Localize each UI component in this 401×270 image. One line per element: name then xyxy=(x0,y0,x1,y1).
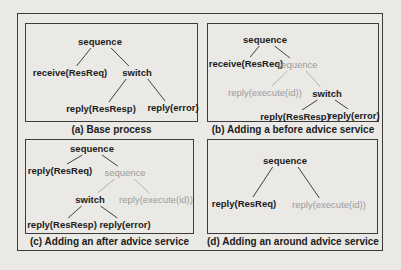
tree-edge-switch-error xyxy=(148,79,165,101)
panel-before-advice: sequencereceive(ResReq)sequencereply(exe… xyxy=(207,23,379,135)
tree-box-d: sequencereply(ResReq)reply(execute(id)) xyxy=(207,139,378,234)
tree-node-c-seq2: sequence xyxy=(104,168,145,178)
panel-base-process: sequencereceive(ResReq)switchreply(ResRe… xyxy=(25,23,198,135)
tree-edge-seq-receive xyxy=(77,48,91,66)
tree-node-a-error: reply(error) xyxy=(147,103,198,113)
tree-node-b-switch: switch xyxy=(312,89,342,99)
tree-edge-seq-replyreq xyxy=(253,167,273,197)
tree-node-c-switch: switch xyxy=(75,195,105,205)
tree-node-b-execid: reply(execute(id)) xyxy=(228,88,302,98)
tree-node-d-replyreq: reply(ResReq) xyxy=(212,199,276,209)
tree-node-c-seq1: sequence xyxy=(70,144,114,154)
tree-edge-seq2-switch xyxy=(98,179,115,193)
tree-edge-seq2-execid xyxy=(272,71,287,86)
tree-edge-seq-switch xyxy=(111,48,129,66)
tree-node-d-seq: sequence xyxy=(263,156,307,166)
panel-around-advice: sequencereply(ResReq)reply(execute(id)) … xyxy=(207,139,378,247)
tree-node-b-error: reply(error) xyxy=(328,111,379,121)
tree-node-a-resresp: reply(ResResp) xyxy=(66,104,136,114)
caption-a: (a) Base process xyxy=(25,124,198,135)
tree-edge-switch-resresp xyxy=(68,206,81,218)
tree-node-b-seq2: sequence xyxy=(276,60,317,70)
tree-box-a: sequencereceive(ResReq)switchreply(ResRe… xyxy=(25,23,198,122)
tree-edge-seq-execid xyxy=(298,167,319,198)
figure-border: sequencereceive(ResReq)switchreply(ResRe… xyxy=(17,13,383,251)
tree-canvas-d xyxy=(208,140,377,233)
tree-node-a-seq: sequence xyxy=(78,37,122,47)
tree-node-a-switch: switch xyxy=(122,68,152,78)
tree-edge-seq2-execid xyxy=(134,179,149,193)
tree-canvas-b xyxy=(208,24,378,121)
caption-c: (c) Adding an after advice service xyxy=(25,236,194,247)
tree-box-c: sequencereply(ResReq)sequenceswitchreply… xyxy=(25,139,194,234)
tree-edge-seq1-seq2 xyxy=(102,155,118,166)
tree-node-c-execid: reply(execute(id)) xyxy=(119,195,193,205)
tree-node-b-resresp: reply(ResResp) xyxy=(260,112,330,122)
tree-node-c-resresp: reply(ResResp) xyxy=(27,220,97,230)
tree-edge-seq2-switch xyxy=(306,71,320,87)
tree-edge-switch-resresp xyxy=(302,100,317,110)
tree-edge-seq1-replyreq xyxy=(67,155,82,164)
tree-node-c-replyreq: reply(ResReq) xyxy=(28,166,92,176)
tree-node-c-error: reply(error) xyxy=(99,220,150,230)
tree-edge-switch-error xyxy=(335,100,348,109)
tree-box-b: sequencereceive(ResReq)sequencereply(exe… xyxy=(207,23,379,122)
tree-node-d-execid: reply(execute(id)) xyxy=(292,200,366,210)
tree-node-b-receive: receive(ResReq) xyxy=(209,59,283,69)
tree-node-b-seq1: sequence xyxy=(243,35,287,45)
tree-node-a-receive: receive(ResReq) xyxy=(33,68,107,78)
tree-edge-seq1-seq2 xyxy=(275,46,290,58)
caption-d: (d) Adding an around advice service xyxy=(207,236,378,247)
caption-b: (b) Adding a before advice service xyxy=(207,124,379,135)
panel-after-advice: sequencereply(ResReq)sequenceswitchreply… xyxy=(25,139,194,247)
tree-edge-switch-error xyxy=(101,206,118,218)
tree-edge-switch-resresp xyxy=(109,79,126,102)
tree-edge-seq1-receive xyxy=(250,46,259,57)
